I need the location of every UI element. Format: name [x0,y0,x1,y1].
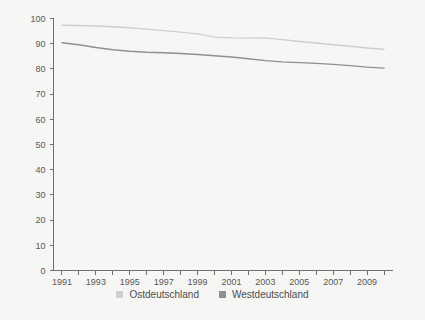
y-tick-label: 40 [35,165,45,175]
legend-label-ostdeutschland: Ostdeutschland [129,289,199,300]
x-tick-label: 2009 [357,277,377,287]
x-tick-label: 2005 [289,277,309,287]
x-tick-label: 1991 [52,277,72,287]
data-series-group [62,25,384,68]
y-tick-label: 100 [30,14,45,24]
legend-swatch-ostdeutschland [116,291,123,298]
y-tick-label: 50 [35,140,45,150]
y-tick-label: 0 [40,266,45,276]
y-tick-label: 70 [35,89,45,99]
y-tick-label: 60 [35,115,45,125]
x-tick-label: 2007 [323,277,343,287]
x-tick-label: 1995 [120,277,140,287]
x-axis-ticks: 1991199319951997199920012003200520072009 [52,271,384,288]
line-chart-plot: 0102030405060708090100 19911993199519971… [0,0,425,320]
y-tick-label: 80 [35,64,45,74]
legend-item-westdeutschland[interactable]: Westdeutschland [219,289,309,300]
chart-legend: Ostdeutschland Westdeutschland [0,289,425,300]
legend-label-westdeutschland: Westdeutschland [232,289,309,300]
x-tick-label: 2003 [255,277,275,287]
chart-container: 0102030405060708090100 19911993199519971… [0,0,425,320]
x-tick-label: 1999 [188,277,208,287]
series-line-ostdeutschland [62,25,384,49]
legend-swatch-westdeutschland [219,291,226,298]
y-tick-label: 10 [35,241,45,251]
x-tick-label: 2001 [221,277,241,287]
y-axis-ticks: 0102030405060708090100 [30,14,53,276]
series-line-westdeutschland [62,43,384,68]
y-tick-label: 20 [35,215,45,225]
y-tick-label: 90 [35,39,45,49]
legend-item-ostdeutschland[interactable]: Ostdeutschland [116,289,199,300]
x-tick-label: 1993 [86,277,106,287]
y-tick-label: 30 [35,190,45,200]
x-tick-label: 1997 [154,277,174,287]
